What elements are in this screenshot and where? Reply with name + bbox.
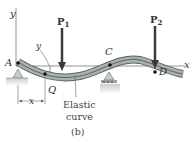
load-p2: P2 xyxy=(150,14,163,69)
deflection-label: y xyxy=(35,41,42,51)
load-p1: P1 xyxy=(57,16,70,71)
point-d-label: D xyxy=(158,66,167,77)
elastic-curve-annotation: Elastic curve xyxy=(63,75,96,122)
figure-caption: (b) xyxy=(71,126,85,137)
y-axis-label: y xyxy=(9,8,16,19)
point-d-marker xyxy=(153,70,157,74)
load-p1-label: P1 xyxy=(57,16,70,29)
beam-diagram: y x A Q C D P1 P xyxy=(0,0,195,144)
x-axis-label: x xyxy=(184,59,190,70)
point-a-label: A xyxy=(4,57,12,68)
point-c-label: C xyxy=(105,46,113,57)
point-c-marker xyxy=(108,63,112,67)
annotation-line1: Elastic xyxy=(63,99,96,110)
annotation-line2: curve xyxy=(66,111,93,122)
point-q-label: Q xyxy=(48,84,56,95)
load-p2-label: P2 xyxy=(150,14,163,27)
point-a-marker xyxy=(16,61,20,65)
pin-support-a xyxy=(6,69,28,86)
dimension-x-label: x xyxy=(29,96,34,106)
point-q-marker xyxy=(43,72,47,76)
roller-support-c xyxy=(100,72,120,94)
